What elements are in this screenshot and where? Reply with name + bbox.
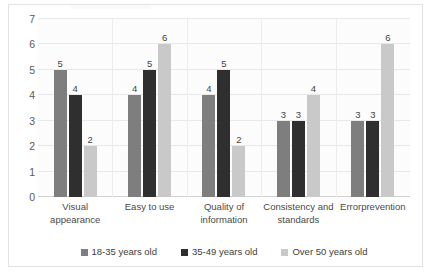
top-edge-artifact — [71, 5, 151, 9]
bar[interactable] — [232, 146, 245, 197]
x-axis-label-line: appearance — [32, 214, 118, 227]
y-axis: 76543210 — [9, 19, 35, 197]
bar-data-label: 5 — [211, 59, 237, 69]
x-axis-label: Errorprevention — [330, 201, 416, 214]
x-axis-category-labels: VisualappearanceEasy to useQuality ofinf… — [38, 201, 410, 237]
bar-data-label: 4 — [62, 84, 88, 94]
bar-data-label: 2 — [77, 135, 103, 145]
y-tick-label-7: 7 — [11, 14, 35, 24]
y-tick-label-4: 4 — [11, 90, 35, 100]
y-tick-label-3: 3 — [11, 116, 35, 126]
bar-data-label: 6 — [375, 33, 401, 43]
legend-label: 18-35 years old — [92, 247, 157, 257]
bar[interactable] — [307, 95, 320, 197]
bar[interactable] — [217, 70, 230, 197]
bar[interactable] — [158, 44, 171, 197]
bar-data-label: 2 — [226, 135, 252, 145]
bar[interactable] — [143, 70, 156, 197]
y-tick-label-6: 6 — [11, 39, 35, 49]
bar-group: 452 — [187, 19, 261, 197]
bar-group: 542 — [38, 19, 112, 197]
bar[interactable] — [381, 44, 394, 197]
bar-data-label: 4 — [300, 84, 326, 94]
y-tick-label-1: 1 — [11, 167, 35, 177]
bar[interactable] — [366, 121, 379, 197]
chart-legend: 18-35 years old35-49 years oldOver 50 ye… — [38, 244, 410, 260]
y-tick-label-5: 5 — [11, 65, 35, 75]
bar[interactable] — [69, 95, 82, 197]
x-axis-label-line: Errorprevention — [330, 201, 416, 214]
bar-group: 456 — [112, 19, 186, 197]
bar-group: 334 — [261, 19, 335, 197]
legend-item[interactable]: Over 50 years old — [281, 247, 367, 257]
bar[interactable] — [84, 146, 97, 197]
legend-label: 35-49 years old — [192, 247, 257, 257]
legend-item[interactable]: 35-49 years old — [181, 247, 257, 257]
bar[interactable] — [202, 95, 215, 197]
bar[interactable] — [351, 121, 364, 197]
legend-swatch-icon — [281, 249, 288, 256]
bar-data-label: 5 — [47, 59, 73, 69]
legend-item[interactable]: 18-35 years old — [81, 247, 157, 257]
bar-group: 336 — [336, 19, 410, 197]
legend-label: Over 50 years old — [292, 247, 367, 257]
bar-data-label: 6 — [152, 33, 178, 43]
bar[interactable] — [277, 121, 290, 197]
y-tick-label-2: 2 — [11, 141, 35, 151]
bar[interactable] — [292, 121, 305, 197]
chart-container: 76543210 542456452334336 Visualappearanc… — [8, 4, 423, 267]
plot-area: 542456452334336 — [38, 19, 410, 197]
bar[interactable] — [128, 95, 141, 197]
x-axis-label-line: standards — [255, 214, 341, 227]
legend-swatch-icon — [81, 249, 88, 256]
legend-swatch-icon — [181, 249, 188, 256]
